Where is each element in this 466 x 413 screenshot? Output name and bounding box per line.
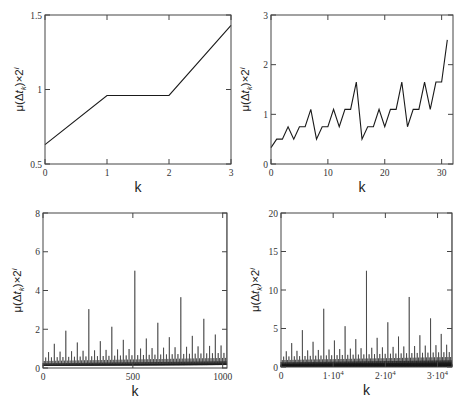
figure-canvas: 01230.511.5kμ(Δtk)×2i01020300123kμ(Δtk)×… — [0, 0, 466, 413]
chart-panel-bl: 0500100002468kμ(Δtk)×2i — [10, 209, 232, 400]
tick-label: 3 — [263, 11, 268, 21]
tick-label: 0 — [35, 364, 40, 374]
data-line — [281, 213, 452, 367]
tick-label: 2 — [35, 325, 40, 335]
tick-label: 1.5 — [30, 11, 42, 21]
tick-label: 30 — [437, 168, 447, 178]
tick-label: 10 — [323, 168, 333, 178]
tick-label: 15 — [269, 247, 279, 257]
x-axis-title: k — [135, 179, 143, 195]
tick-label: 1 — [105, 168, 110, 178]
tick-label: 0 — [279, 371, 284, 381]
tick-label: 20 — [269, 209, 279, 219]
chart-panel-tr: 01020300123kμ(Δtk)×2i — [238, 11, 453, 196]
tick-label: 1·104 — [323, 369, 344, 381]
tick-label: 0 — [263, 160, 268, 170]
y-axis-title: μ(Δtk)×2i — [12, 67, 28, 111]
tick-label: 1 — [263, 110, 268, 120]
tick-label: 3 — [229, 168, 234, 178]
figure-caption — [0, 404, 466, 413]
tick-label: 5 — [273, 324, 278, 334]
chart-panel-br: 01·1042·1043·10405101520kμ(Δtk)×2i — [248, 209, 452, 399]
plot-frame — [45, 15, 231, 164]
data-line — [271, 40, 447, 148]
data-line — [43, 213, 227, 366]
y-axis-title: μ(Δtk)×2i — [238, 67, 254, 111]
tick-label: 2 — [167, 168, 172, 178]
tick-label: 6 — [35, 247, 40, 257]
tick-label: 0 — [269, 168, 274, 178]
tick-label: 20 — [380, 168, 390, 178]
data-line — [45, 25, 231, 144]
tick-label: 2·104 — [375, 369, 396, 381]
tick-label: 0 — [273, 363, 278, 373]
tick-label: 0 — [43, 168, 48, 178]
y-axis-title: μ(Δtk)×2i — [10, 268, 26, 312]
tick-label: 500 — [126, 372, 141, 382]
x-axis-title: k — [132, 383, 140, 399]
chart-panel-tl: 01230.511.5kμ(Δtk)×2i — [12, 11, 234, 196]
tick-label: 1 — [37, 85, 42, 95]
tick-label: 0 — [41, 372, 46, 382]
tick-label: 4 — [35, 286, 40, 296]
tick-label: 10 — [269, 286, 279, 296]
x-axis-title: k — [363, 382, 371, 398]
y-axis-title: μ(Δtk)×2i — [248, 268, 264, 312]
tick-label: 2 — [263, 60, 268, 70]
tick-label: 8 — [35, 209, 40, 219]
x-axis-title: k — [359, 179, 367, 195]
tick-label: 1000 — [213, 372, 232, 382]
tick-label: 0.5 — [30, 160, 42, 170]
tick-label: 3·104 — [427, 369, 448, 381]
